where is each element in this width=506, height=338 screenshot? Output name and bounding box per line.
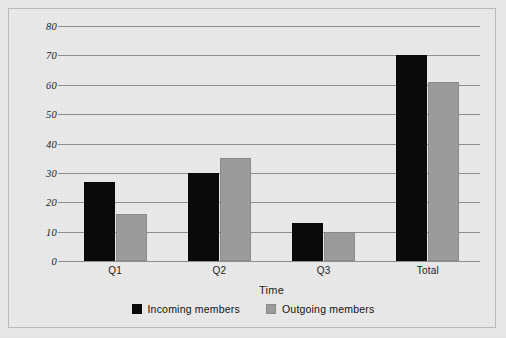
- y-axis-tick-label: 80: [17, 21, 57, 32]
- y-axis-tick-label: 60: [17, 79, 57, 90]
- x-axis-tick-label: Q3: [317, 265, 331, 276]
- bar-q2-outgoing: [220, 158, 251, 261]
- y-axis-tick-label: 0: [17, 256, 57, 267]
- legend-item[interactable]: Incoming members: [132, 303, 240, 315]
- gridline: [63, 26, 480, 27]
- x-axis-title: Time: [63, 284, 480, 296]
- y-axis-tick-label: 70: [17, 50, 57, 61]
- bar-q1-outgoing: [116, 214, 147, 261]
- incoming-swatch-icon: [132, 304, 142, 314]
- legend-item-label: Outgoing members: [282, 303, 375, 315]
- gridline: [63, 261, 480, 262]
- bar-q1-incoming: [84, 182, 115, 261]
- y-axis-tick-label: 40: [17, 138, 57, 149]
- bar-total-outgoing: [428, 82, 459, 261]
- y-axis-tick-label: 50: [17, 109, 57, 120]
- y-axis-tick-label: 20: [17, 197, 57, 208]
- x-axis-tick-label: Q1: [108, 265, 122, 276]
- bar-total-incoming: [396, 55, 427, 261]
- bar-q3-outgoing: [324, 232, 355, 261]
- chart-legend: Incoming membersOutgoing members: [0, 303, 506, 315]
- y-axis-tick-label: 10: [17, 226, 57, 237]
- x-axis-tick-label: Total: [417, 265, 439, 276]
- plot-area: [63, 26, 480, 261]
- outgoing-swatch-icon: [266, 304, 276, 314]
- chart-figure: Number of members 80706050403020100 Q1Q2…: [0, 0, 506, 338]
- bar-q2-incoming: [188, 173, 219, 261]
- x-axis-tick-label: Q2: [213, 265, 227, 276]
- legend-item-label: Incoming members: [148, 303, 240, 315]
- y-axis-tick-label: 30: [17, 167, 57, 178]
- bar-q3-incoming: [292, 223, 323, 261]
- legend-item[interactable]: Outgoing members: [266, 303, 375, 315]
